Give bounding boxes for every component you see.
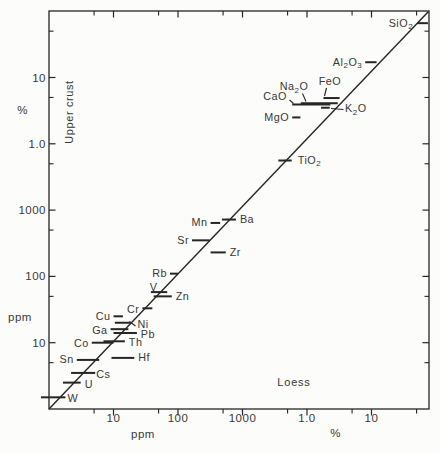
y-axis-percent-unit: %	[17, 104, 28, 116]
element-label-w: W	[67, 392, 78, 404]
element-label-v: V	[150, 281, 158, 293]
element-label-rb: Rb	[152, 267, 167, 279]
chart-canvas: 1010010001.0101010010001.010%ppmppm%Uppe…	[0, 0, 440, 453]
element-label-sn: Sn	[60, 353, 74, 365]
element-label-feo: FeO	[319, 75, 342, 87]
element-label-cu: Cu	[96, 310, 111, 322]
y-tick-label: 10	[32, 72, 46, 84]
y-tick-label: 1.0	[29, 138, 47, 150]
element-label-al2o3: Al2O3	[333, 56, 362, 71]
x-tick-label: 1.0	[298, 412, 316, 424]
element-label-hf: Hf	[138, 351, 150, 363]
element-label-ba: Ba	[240, 213, 254, 225]
element-label-ga: Ga	[92, 324, 107, 336]
element-label-zn: Zn	[176, 290, 190, 302]
x-axis-ppm-unit: ppm	[131, 428, 155, 440]
element-label-cao: CaO	[263, 90, 287, 102]
y-tick-label: 10	[32, 337, 46, 349]
element-label-zr: Zr	[230, 246, 241, 258]
leader-feo	[325, 88, 327, 96]
element-label-k2o: K2O	[345, 102, 367, 117]
element-label-cs: Cs	[96, 368, 110, 380]
element-label-pb: Pb	[141, 328, 155, 340]
leader-k2o	[331, 109, 344, 110]
loess-vs-upper-crust-figure: 1010010001.0101010010001.010%ppmppm%Uppe…	[0, 0, 440, 453]
y-tick-label: 100	[25, 270, 46, 282]
x-tick-label: 10	[107, 412, 121, 424]
x-tick-label: 1000	[229, 412, 257, 424]
element-label-u: U	[85, 378, 93, 390]
leader-na2o	[303, 94, 307, 102]
x-axis-percent-unit: %	[330, 427, 341, 439]
y-variable-label: Upper crust	[63, 80, 75, 143]
element-label-co: Co	[74, 337, 89, 349]
identity-line	[49, 12, 429, 410]
element-label-cr: Cr	[127, 303, 139, 315]
y-tick-label: 1000	[18, 204, 46, 216]
element-label-sr: Sr	[177, 234, 189, 246]
leader-cao	[290, 100, 294, 104]
element-label-sio2: SiO2	[389, 17, 414, 32]
x-tick-label: 100	[168, 412, 189, 424]
element-label-th: Th	[129, 336, 143, 348]
element-label-mgo: MgO	[264, 111, 289, 123]
element-label-tio2: TiO2	[298, 154, 322, 169]
x-variable-label: Loess	[277, 376, 310, 388]
element-label-mn: Mn	[192, 216, 208, 228]
y-axis-ppm-unit: ppm	[8, 311, 32, 323]
x-tick-label: 10	[365, 412, 379, 424]
